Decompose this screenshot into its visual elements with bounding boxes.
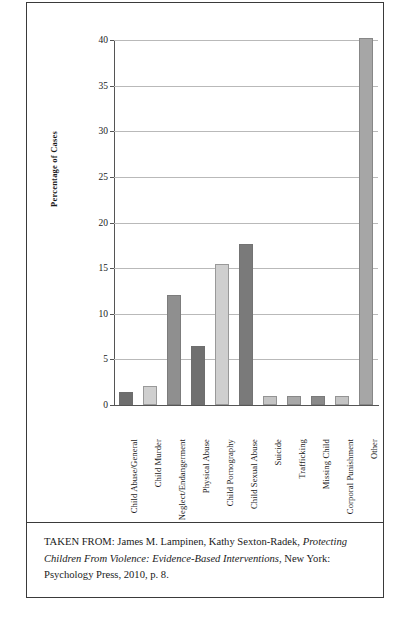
y-tick-mark [110, 268, 114, 269]
x-tick-label: Child Pornography [225, 366, 235, 436]
bar [263, 396, 277, 405]
gridline [114, 86, 378, 87]
x-tick-label-text: Missing Child [321, 436, 331, 489]
x-tick-label: Neglect/Endangerment [177, 352, 187, 436]
y-tick-mark [110, 131, 114, 132]
x-tick-label-text: Child Pornography [225, 436, 235, 506]
x-tick-label-text: Corporal Punishment [345, 436, 355, 514]
bar [359, 38, 373, 405]
x-tick-label: Missing Child [321, 383, 331, 436]
plot-area: 0510152025303540 Child Abuse/GeneralChil… [114, 40, 378, 405]
x-tick-label-text: Trafficking [297, 436, 307, 479]
x-tick-label: Child Sexual Abuse [249, 363, 259, 436]
x-tick-label: Corporal Punishment [345, 358, 355, 436]
x-tick-label: Trafficking [297, 393, 307, 436]
x-tick-label-text: Child Sexual Abuse [249, 436, 259, 509]
gridline [114, 177, 378, 178]
x-tick-label: Child Murder [153, 385, 163, 436]
y-tick-mark [110, 405, 114, 406]
gridline [114, 223, 378, 224]
y-tick-label: 30 [99, 126, 109, 136]
x-tick-label: Physical Abuse [201, 379, 211, 436]
y-tick-label: 25 [99, 172, 109, 182]
y-tick-mark [110, 86, 114, 87]
x-tick-label-text: Suicide [273, 436, 283, 465]
x-tick-label: Suicide [273, 407, 283, 436]
bar-chart: Percentage of Cases 0510152025303540 Chi… [26, 14, 384, 514]
y-tick-label: 0 [103, 400, 108, 410]
y-tick-mark [110, 40, 114, 41]
y-tick-mark [110, 223, 114, 224]
y-tick-label: 35 [99, 81, 109, 91]
x-tick-label: Other [369, 413, 379, 436]
y-tick-label: 20 [99, 218, 109, 228]
x-tick-label: Child Abuse/General [129, 359, 139, 436]
y-tick-label: 5 [103, 354, 108, 364]
source-caption: TAKEN FROM: James M. Lampinen, Kathy Sex… [44, 534, 370, 584]
y-tick-label: 40 [99, 35, 109, 45]
x-tick-label-text: Physical Abuse [201, 436, 211, 493]
y-tick-label: 15 [99, 263, 109, 273]
x-tick-label-text: Other [369, 436, 379, 459]
gridline [114, 131, 378, 132]
y-tick-mark [110, 177, 114, 178]
y-tick-mark [110, 359, 114, 360]
x-tick-label-text: Neglect/Endangerment [177, 436, 187, 520]
gridline [114, 40, 378, 41]
caption-lead: TAKEN FROM: James M. Lampinen, Kathy Sex… [44, 536, 303, 547]
y-axis-title: Percentage of Cases [49, 89, 59, 249]
x-tick-label-text: Child Abuse/General [129, 436, 139, 513]
y-tick-label: 10 [99, 309, 109, 319]
x-tick-label-text: Child Murder [153, 436, 163, 487]
y-tick-mark [110, 314, 114, 315]
caption-divider [26, 522, 384, 523]
